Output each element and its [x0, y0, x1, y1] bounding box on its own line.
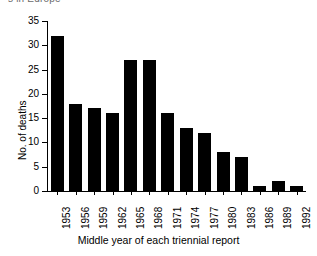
x-axis-tick-label-1974: 1974	[190, 207, 201, 229]
bar-1983	[235, 157, 248, 191]
x-axis-tick-label-1977: 1977	[209, 207, 220, 229]
y-axis-tick: 10	[42, 142, 47, 143]
y-axis-title-text: No. of deaths	[17, 101, 29, 160]
y-axis-tick-mark	[42, 167, 47, 168]
x-axis-tick-mark	[57, 191, 58, 195]
y-axis-tick-label: 0	[33, 185, 39, 196]
bar-1953	[51, 36, 64, 191]
x-axis-tick-label-1983: 1983	[246, 207, 257, 229]
y-axis-tick-label: 20	[28, 88, 39, 99]
bar-1962	[106, 113, 119, 191]
bar-1989	[272, 181, 285, 191]
y-axis-tick-label: 10	[28, 136, 39, 147]
bar-1980	[217, 152, 230, 191]
x-axis-tick-mark	[205, 191, 206, 195]
x-axis-tick-label-1959: 1959	[98, 207, 109, 229]
x-axis-tick-mark	[131, 191, 132, 195]
y-axis-tick: 0	[42, 191, 47, 192]
y-axis-tick-label: 25	[28, 64, 39, 75]
bar-1959	[88, 108, 101, 191]
x-axis-tick-mark	[113, 191, 114, 195]
x-axis-tick-label-1980: 1980	[227, 207, 238, 229]
y-axis-tick: 25	[42, 70, 47, 71]
bar-1965	[124, 60, 137, 191]
truncated-caption-text: s in Europe	[8, 0, 168, 4]
bar-1974	[180, 128, 193, 191]
x-axis-tick-label-1986: 1986	[264, 207, 275, 229]
x-axis-tick-mark	[168, 191, 169, 195]
y-axis-tick: 35	[42, 21, 47, 22]
plot-area	[48, 21, 306, 191]
x-axis-tick-mark	[297, 191, 298, 195]
y-axis-tick-mark	[42, 94, 47, 95]
y-axis-tick-mark	[42, 191, 47, 192]
y-axis-tick: 30	[42, 45, 47, 46]
x-axis-tick-label-1971: 1971	[172, 207, 183, 229]
y-axis-tick-mark	[42, 142, 47, 143]
y-axis-tick: 20	[42, 94, 47, 95]
x-axis-tick-mark	[223, 191, 224, 195]
x-axis-tick-label-1968: 1968	[153, 207, 164, 229]
y-axis-title: No. of deaths	[5, 60, 19, 160]
x-axis-tick-mark	[94, 191, 95, 195]
y-axis-tick-mark	[42, 45, 47, 46]
x-axis-tick-label-1989: 1989	[282, 207, 293, 229]
y-axis-tick: 15	[42, 118, 47, 119]
x-axis-tick-label-1956: 1956	[80, 207, 91, 229]
bar-1971	[161, 113, 174, 191]
x-axis-tick-label-1965: 1965	[135, 207, 146, 229]
x-axis-tick-mark	[186, 191, 187, 195]
x-axis-tick-mark	[278, 191, 279, 195]
y-axis-tick-mark	[42, 21, 47, 22]
x-axis-line	[47, 191, 306, 192]
bar-1968	[143, 60, 156, 191]
y-axis-tick-label: 5	[33, 161, 39, 172]
figure-chart-deaths-by-triennium: s in Europe No. of deaths 05101520253035…	[0, 0, 317, 256]
x-axis-tick-mark	[241, 191, 242, 195]
x-axis-tick-mark	[76, 191, 77, 195]
x-axis-tick-label-1992: 1992	[301, 207, 312, 229]
bar-1977	[198, 133, 211, 191]
x-axis-title: Middle year of each triennial report	[0, 234, 317, 247]
y-axis-tick-mark	[42, 118, 47, 119]
x-axis-tick-mark	[149, 191, 150, 195]
x-axis-tick-mark	[260, 191, 261, 195]
x-axis-tick-label-1953: 1953	[61, 207, 72, 229]
y-axis-tick-label: 30	[28, 39, 39, 50]
y-axis-tick: 5	[42, 167, 47, 168]
bar-1956	[69, 104, 82, 191]
x-axis-tick-label-1962: 1962	[117, 207, 128, 229]
y-axis-tick-label: 15	[28, 112, 39, 123]
y-axis-tick-mark	[42, 70, 47, 71]
y-axis-tick-label: 35	[28, 15, 39, 26]
